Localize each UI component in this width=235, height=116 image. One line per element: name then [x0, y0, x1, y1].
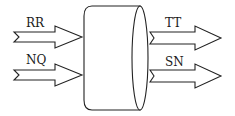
input-arrow-rr	[14, 26, 82, 48]
output-arrow-sn	[150, 64, 221, 88]
output-arrow-tt	[150, 26, 221, 50]
cylinder-shape	[84, 6, 148, 110]
output-label-tt: TT	[165, 16, 181, 30]
diagram-canvas: RR NQ TT SN	[0, 0, 235, 116]
input-label-nq: NQ	[26, 53, 47, 67]
input-label-rr: RR	[26, 16, 45, 30]
input-arrow-nq	[14, 64, 82, 86]
output-label-sn: SN	[165, 55, 184, 69]
